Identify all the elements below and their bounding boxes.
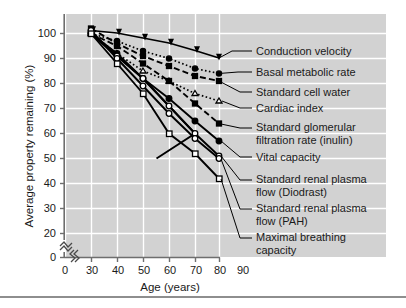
callout-label-renal-plasma-flow-diodrast: Standard renal plasma flow (Diodrast): [256, 173, 367, 198]
y-tick-label-0: 0: [30, 252, 56, 263]
callout-label-glomerular-filtration-rate: Standard glomerular filtration rate (inu…: [256, 121, 356, 146]
x-tick-label-80: 80: [210, 265, 230, 276]
x-tick-label-90: 90: [233, 265, 253, 276]
x-axis-title: Age (years): [90, 281, 250, 293]
x-tick-label-0: 0: [55, 265, 75, 276]
y-tick-label-100: 100: [30, 28, 56, 39]
x-tick-label-30: 30: [82, 265, 102, 276]
x-tick-label-50: 50: [134, 265, 154, 276]
y-axis-title: Average property remaining (%): [23, 51, 35, 241]
callout-label-standard-cell-water: Standard cell water: [256, 86, 350, 99]
x-tick-label-70: 70: [186, 265, 206, 276]
callout-label-vital-capacity: Vital capacity: [256, 151, 321, 164]
callout-label-conduction-velocity: Conduction velocity: [256, 45, 351, 58]
figure-bottom-rule: [0, 296, 406, 298]
x-tick-label-40: 40: [108, 265, 128, 276]
callout-label-cardiac-index: Cardiac index: [256, 102, 323, 115]
chart-figure: 100 90 80 70 60 50 40 30 20 0 0 30 40 50…: [0, 0, 406, 308]
callout-label-basal-metabolic-rate: Basal metabolic rate: [256, 66, 356, 79]
x-tick-label-60: 60: [160, 265, 180, 276]
callout-label-maximal-breathing-capacity: Maximal breathing capacity: [256, 231, 346, 256]
callout-label-renal-plasma-flow-pah: Standard renal plasma flow (PAH): [256, 202, 367, 227]
